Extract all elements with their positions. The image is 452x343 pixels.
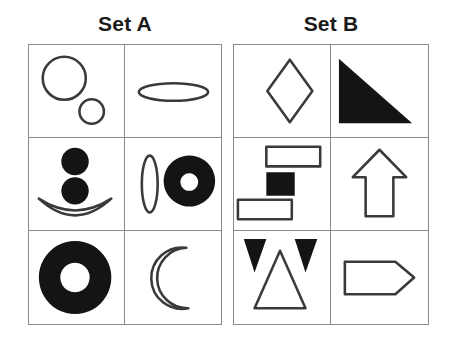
rectangles-and-filled-square (234, 138, 330, 230)
vertical-ellipse-and-ring (125, 138, 221, 230)
right-pointing-pentagon-outline (331, 231, 428, 324)
triangles-group (234, 231, 330, 324)
diamond-outline (234, 45, 330, 137)
set-a-cell-3[interactable] (29, 138, 125, 231)
crescent-moon-outline (125, 231, 221, 324)
set-b-cell-4[interactable] (331, 138, 428, 231)
set-b-cell-3[interactable] (234, 138, 331, 231)
set-b-cell-6[interactable] (331, 231, 428, 324)
set-a-title: Set A (28, 12, 222, 36)
horizontal-ellipse-outline (125, 45, 221, 137)
set-a-cell-6[interactable] (125, 231, 221, 324)
filled-circles-and-smile (29, 138, 124, 230)
set-a-cell-5[interactable] (29, 231, 125, 324)
bongard-problem-figure: Set A (0, 0, 452, 343)
set-b-cell-5[interactable] (234, 231, 331, 324)
set-b-grid (233, 44, 429, 325)
set-a-cell-2[interactable] (125, 45, 221, 138)
set-a-grid (28, 44, 222, 325)
set-a-cell-1[interactable] (29, 45, 125, 138)
set-b-title: Set B (233, 12, 429, 36)
filled-right-triangle (331, 45, 428, 137)
large-circle-outline (29, 45, 124, 137)
large-filled-ring (29, 231, 124, 324)
set-b-cell-1[interactable] (234, 45, 331, 138)
set-b-cell-2[interactable] (331, 45, 428, 138)
set-a-cell-4[interactable] (125, 138, 221, 231)
up-arrow-outline (331, 138, 428, 230)
